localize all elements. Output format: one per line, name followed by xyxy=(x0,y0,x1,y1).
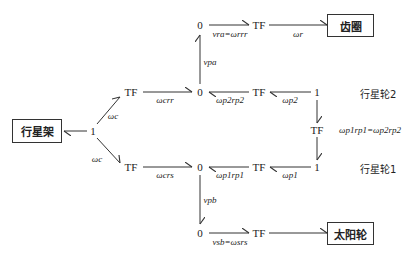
label-wp1rp1: ωp1rp1 xyxy=(216,171,244,180)
label-vpa: vpa xyxy=(204,58,217,67)
ring-gear-box: 齿圈 xyxy=(327,14,374,37)
tf-ring: TF xyxy=(253,20,266,31)
tf-planet-mid: TF xyxy=(311,125,324,136)
tf-sun: TF xyxy=(253,228,266,239)
label-wr: ωr xyxy=(293,30,303,39)
zero-junction-upper: 0 xyxy=(197,87,203,98)
label-wc-rs: ωcrs xyxy=(156,171,173,180)
planet1-label: 行星轮1 xyxy=(360,161,396,176)
label-vpb: vpb xyxy=(204,196,217,205)
zero-junction-top: 0 xyxy=(197,20,203,31)
tf-lower: TF xyxy=(125,162,138,173)
zero-junction-bottom: 0 xyxy=(197,228,203,239)
label-vsb: vsb=ωsrs xyxy=(213,238,248,247)
label-vra: vra=ωrrr xyxy=(213,30,248,39)
sun-gear-box: 太阳轮 xyxy=(327,222,374,245)
planet2-label: 行星轮2 xyxy=(360,86,396,101)
label-wc-up: ωc xyxy=(108,112,118,121)
tf-upper: TF xyxy=(125,87,138,98)
label-planet-eq: ωp1rp1=ωp2rp2 xyxy=(339,126,401,135)
label-wc-down: ωc xyxy=(92,155,102,164)
label-wp2: ωp2 xyxy=(282,96,297,105)
tf-planet2: TF xyxy=(253,87,266,98)
zero-junction-lower: 0 xyxy=(197,162,203,173)
one-junction-planet1: 1 xyxy=(314,162,320,173)
label-wp1: ωp1 xyxy=(282,171,297,180)
label-wp2rp2: ωp2rp2 xyxy=(216,96,244,105)
tf-planet1: TF xyxy=(253,162,266,173)
carrier-1-junction: 1 xyxy=(90,126,96,137)
label-wc-rr: ωcrr xyxy=(156,96,173,105)
one-junction-planet2: 1 xyxy=(314,87,320,98)
carrier-box: 行星架 xyxy=(12,119,62,143)
